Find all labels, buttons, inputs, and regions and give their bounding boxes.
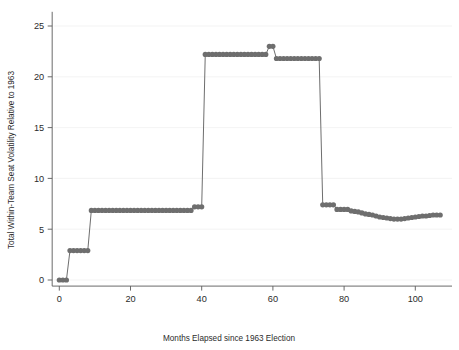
y-tick-label-10: 10 (34, 174, 44, 184)
x-tick-label-100: 100 (408, 294, 423, 304)
data-point (85, 248, 90, 253)
y-tick-label-15: 15 (34, 123, 44, 133)
x-tick-label-40: 40 (197, 294, 207, 304)
data-point (270, 44, 275, 49)
y-axis-title: Total Within-Team Seat Volatility Relati… (7, 71, 16, 249)
data-point (317, 56, 322, 61)
volatility-line-chart: 0510152025 020406080100 Months Elapsed s… (0, 0, 459, 350)
data-point (64, 277, 69, 282)
y-tick-label-5: 5 (39, 225, 44, 235)
y-tick-label-20: 20 (34, 72, 44, 82)
x-tick-label-0: 0 (57, 294, 62, 304)
data-point (199, 204, 204, 209)
data-point (263, 52, 268, 57)
x-tick-label-60: 60 (268, 294, 278, 304)
chart-figure: 0510152025 020406080100 Months Elapsed s… (0, 0, 459, 350)
x-tick-label-80: 80 (339, 294, 349, 304)
x-tick-label-20: 20 (125, 294, 135, 304)
y-tick-label-0: 0 (39, 275, 44, 285)
x-axis-title: Months Elapsed since 1963 Election (163, 334, 295, 343)
y-tick-label-25: 25 (34, 21, 44, 31)
data-point (331, 202, 336, 207)
data-point (438, 212, 443, 217)
